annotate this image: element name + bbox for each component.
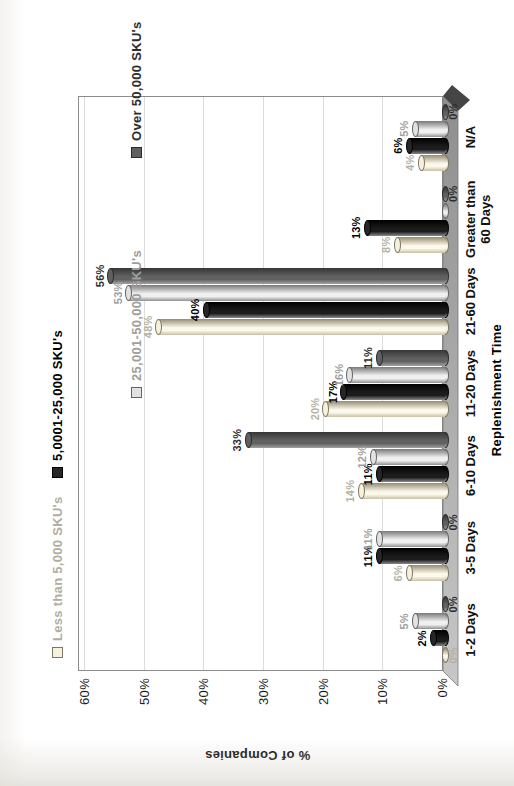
data-label-s4-c3: 33% [231, 420, 243, 460]
legend-label-3: 25,001-50,000 SKU's [129, 250, 145, 381]
legend-marker-1-icon [52, 647, 63, 658]
legend-marker-3-icon [131, 387, 142, 398]
data-label-s3-c2: 11% [362, 519, 374, 559]
legend-label-1: Less than 5,000 SKU's [50, 496, 66, 641]
data-label-s1-c3: 14% [344, 471, 356, 511]
scanned-chart-page: Less than 5,000 SKU's5,0001-25,000 SKU's… [0, 0, 514, 786]
data-labels-layer: 0%2%5%0%6%11%11%0%14%11%12%33%20%17%16%1… [0, 0, 514, 786]
data-label-s3-c5: 53% [112, 273, 124, 313]
data-label-s4-c2: 0% [447, 502, 459, 542]
legend-label-2: 5,0001-25,000 SKU's [50, 330, 66, 461]
y-axis-title: % of Companies [158, 748, 358, 763]
data-label-s3-c3: 12% [356, 437, 368, 477]
legend-label-4: Over 50,000 SKU's [129, 22, 145, 142]
data-label-s1-c7: 4% [404, 143, 416, 183]
data-label-s1-c2: 6% [392, 553, 404, 593]
data-label-s4-c7: 0% [447, 92, 459, 132]
data-label-s1-c1: 0% [447, 635, 459, 675]
x-axis-title: Replenishment Time [489, 290, 504, 490]
chart-canvas: Less than 5,000 SKU's5,0001-25,000 SKU's… [0, 0, 514, 786]
data-label-s2-c6: 13% [350, 208, 362, 248]
data-label-s4-c4: 11% [362, 338, 374, 378]
data-label-s4-c5: 56% [94, 256, 106, 296]
data-label-s2-c1: 2% [416, 618, 428, 658]
data-label-s2-c5: 40% [189, 290, 201, 330]
data-label-s1-c4: 20% [309, 389, 321, 429]
data-label-s4-c6: 0% [447, 174, 459, 214]
data-label-s3-c4: 16% [333, 355, 345, 395]
legend-marker-4-icon [131, 147, 142, 158]
data-label-s3-c7: 5% [398, 109, 410, 149]
data-label-s1-c6: 8% [380, 225, 392, 265]
legend-marker-2-icon [52, 467, 63, 478]
data-label-s4-c1: 0% [447, 584, 459, 624]
data-label-s3-c1: 5% [398, 601, 410, 641]
